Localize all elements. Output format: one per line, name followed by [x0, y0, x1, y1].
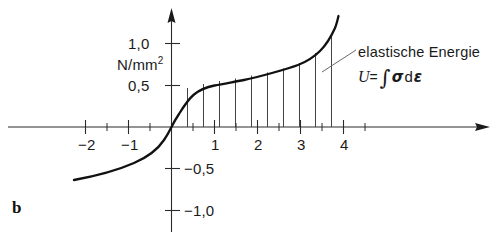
x-tick-label-3: 3 — [297, 137, 306, 152]
formula-variable-u: U — [358, 68, 370, 85]
hatch-lines — [188, 36, 332, 127]
integral-icon: ∫ — [380, 66, 391, 90]
x-tick-label-minus-1: −1 — [121, 137, 139, 152]
annotation-leader-line — [322, 50, 356, 72]
formula-differential-d: d — [404, 68, 412, 85]
y-axis-unit-base: N/mm — [117, 56, 158, 73]
annotation-formula: U=∫σdε — [358, 66, 422, 90]
x-axis — [8, 123, 490, 131]
y-tick-label-minus-1-0: −1,0 — [184, 203, 214, 218]
x-tick-label-4: 4 — [340, 137, 349, 152]
formula-sigma: σ — [392, 68, 404, 86]
figure-panel-b: 1,0 N/mm2 0,5 −0,5 −1,0 −2 −1 1 2 3 4 el… — [0, 0, 504, 235]
y-tick-label-0-5: 0,5 — [128, 78, 149, 93]
y-tick-label-1-0: 1,0 — [128, 36, 149, 51]
stress-strain-plot — [0, 0, 504, 235]
y-tick-label-minus-0-5: −0,5 — [184, 161, 214, 176]
x-tick-label-minus-2: −2 — [78, 137, 96, 152]
y-axis-unit-exponent: 2 — [158, 55, 164, 66]
curve-sigma-epsilon — [74, 16, 339, 180]
formula-equals: = — [370, 69, 378, 85]
x-tick-label-2: 2 — [254, 137, 263, 152]
formula-epsilon: ε — [414, 68, 422, 86]
panel-label: b — [12, 198, 21, 218]
annotation-title: elastische Energie — [358, 44, 480, 60]
x-tick-label-1: 1 — [211, 137, 220, 152]
y-axis-unit-label: N/mm2 — [117, 56, 164, 72]
